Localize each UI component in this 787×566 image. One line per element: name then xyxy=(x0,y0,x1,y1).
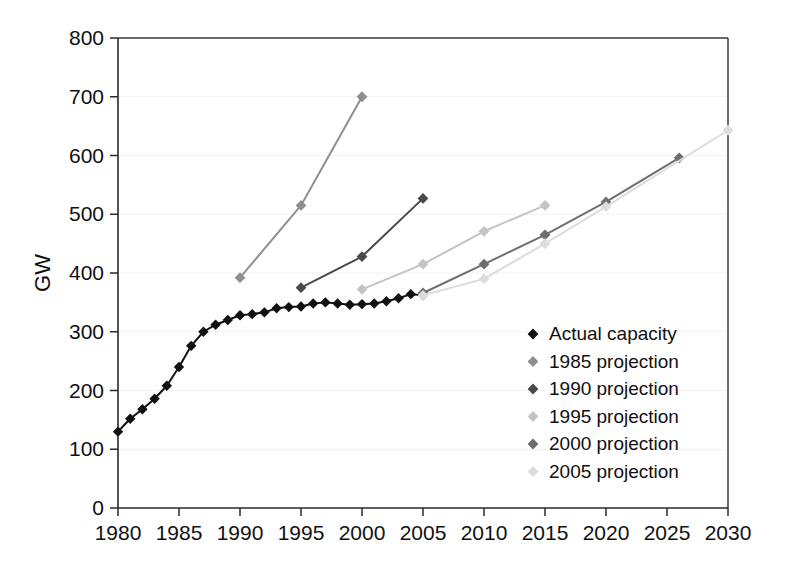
data-point-marker xyxy=(296,282,307,293)
x-tick-label: 2010 xyxy=(461,521,508,544)
legend-item: 2000 projection xyxy=(528,433,679,454)
x-tick-label: 2030 xyxy=(705,521,752,544)
x-tick-label: 1990 xyxy=(217,521,264,544)
y-axis-title-group: GW xyxy=(30,254,55,292)
y-tick-label: 0 xyxy=(92,496,104,519)
y-axis-title: GW xyxy=(30,254,55,292)
legend-item: 1990 projection xyxy=(528,378,679,399)
data-point-marker xyxy=(174,362,184,372)
y-tick-marks-group xyxy=(110,38,118,508)
data-point-marker xyxy=(381,296,391,306)
x-tick-label: 2025 xyxy=(644,521,691,544)
diamond-marker-icon xyxy=(528,329,539,340)
data-point-marker xyxy=(247,309,257,319)
data-point-marker xyxy=(479,273,490,284)
y-tick-labels-group: 8007006005004003002001000 xyxy=(69,26,104,519)
legend-item: 2005 projection xyxy=(528,461,679,482)
data-point-marker xyxy=(345,300,355,310)
data-point-marker xyxy=(296,301,306,311)
x-tick-label: 1995 xyxy=(278,521,325,544)
data-point-marker xyxy=(308,298,318,308)
series-2000-projection xyxy=(418,152,685,298)
series-2005-projection xyxy=(418,125,734,301)
legend-item-label: 2000 projection xyxy=(549,433,679,454)
data-point-marker xyxy=(223,315,233,325)
x-tick-label: 1985 xyxy=(156,521,203,544)
series-actual-capacity xyxy=(113,289,428,437)
x-tick-label: 2000 xyxy=(339,521,386,544)
series-1985-projection xyxy=(235,91,368,283)
data-point-marker xyxy=(235,310,245,320)
data-point-marker xyxy=(332,298,342,308)
data-point-marker xyxy=(271,303,281,313)
y-tick-label: 100 xyxy=(69,437,104,460)
data-point-marker xyxy=(369,298,379,308)
chart-legend: Actual capacity1985 projection1990 proje… xyxy=(528,323,679,482)
data-point-marker xyxy=(259,307,269,317)
series-line xyxy=(240,97,362,278)
data-point-marker xyxy=(479,226,490,237)
data-point-marker xyxy=(540,238,551,249)
diamond-marker-icon xyxy=(528,356,539,367)
data-point-marker xyxy=(320,297,330,307)
series-line xyxy=(301,198,423,287)
legend-item-label: Actual capacity xyxy=(549,323,677,344)
y-tick-label: 200 xyxy=(69,379,104,402)
series-1990-projection xyxy=(296,193,429,293)
data-point-marker xyxy=(418,259,429,270)
x-tick-label: 1980 xyxy=(95,521,142,544)
data-point-marker xyxy=(540,200,551,211)
x-tick-marks-group xyxy=(118,508,728,516)
legend-item-label: 2005 projection xyxy=(549,461,679,482)
y-tick-label: 300 xyxy=(69,320,104,343)
data-point-marker xyxy=(406,289,416,299)
data-point-marker xyxy=(357,91,368,102)
diamond-marker-icon xyxy=(528,439,539,450)
y-tick-label: 600 xyxy=(69,144,104,167)
line-chart: 8007006005004003002001000 19801985199019… xyxy=(0,0,787,566)
data-point-marker xyxy=(210,320,220,330)
data-point-marker xyxy=(479,259,490,270)
diamond-marker-icon xyxy=(528,384,539,395)
legend-item-label: 1985 projection xyxy=(549,351,679,372)
data-point-marker xyxy=(284,302,294,312)
data-point-marker xyxy=(357,299,367,309)
x-tick-label: 2020 xyxy=(583,521,630,544)
legend-item: Actual capacity xyxy=(528,323,678,344)
y-tick-label: 700 xyxy=(69,85,104,108)
x-tick-label: 2005 xyxy=(400,521,447,544)
y-tick-label: 400 xyxy=(69,261,104,284)
x-tick-labels-group: 1980198519901995200020052010201520202025… xyxy=(95,521,752,544)
chart-container: 8007006005004003002001000 19801985199019… xyxy=(0,0,787,566)
legend-item: 1995 projection xyxy=(528,406,679,427)
y-tick-label: 800 xyxy=(69,26,104,49)
x-tick-label: 2015 xyxy=(522,521,569,544)
data-point-marker xyxy=(357,284,368,295)
legend-item-label: 1990 projection xyxy=(549,378,679,399)
legend-item: 1985 projection xyxy=(528,351,679,372)
diamond-marker-icon xyxy=(528,466,539,477)
data-point-marker xyxy=(723,125,734,136)
series-line xyxy=(118,294,423,431)
diamond-marker-icon xyxy=(528,411,539,422)
data-point-marker xyxy=(393,293,403,303)
legend-item-label: 1995 projection xyxy=(549,406,679,427)
y-tick-label: 500 xyxy=(69,202,104,225)
